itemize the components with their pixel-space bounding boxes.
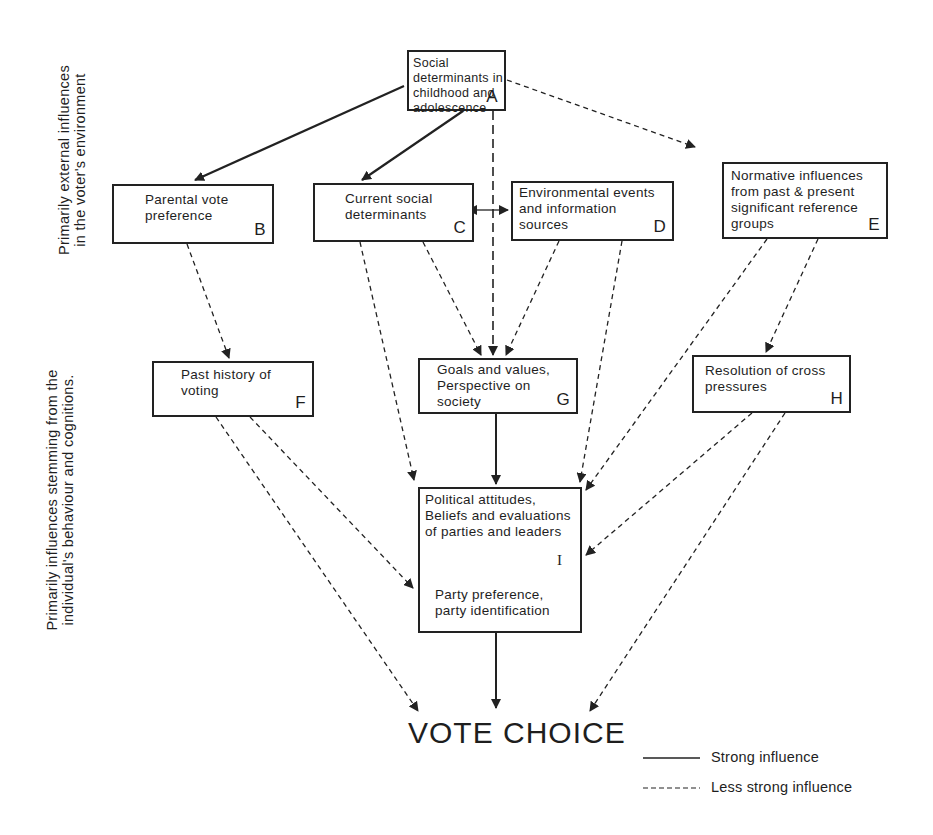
vote-choice-outcome: VOTE CHOICE <box>408 716 626 750</box>
edge-f-vote <box>216 417 418 711</box>
node-label: Goals and values, Perspective on society <box>437 362 550 410</box>
edge-c-i <box>360 242 414 480</box>
node-letter: G <box>556 391 570 409</box>
node-label: Normative influences from past & present… <box>731 168 863 232</box>
node-i-top-label: Political attitudes, Beliefs and evaluat… <box>425 492 571 540</box>
node-label: Past history of voting <box>181 367 271 399</box>
node-label: Social determinants in childhood and ado… <box>413 56 504 116</box>
node-c-current-social-determinants: Current social determinants C <box>313 183 474 242</box>
node-label: Environmental events and information sou… <box>519 185 655 233</box>
node-letter: D <box>653 218 666 236</box>
node-letter: H <box>830 390 843 408</box>
node-a-social-determinants-childhood: Social determinants in childhood and ado… <box>407 50 506 111</box>
edge-d-i <box>580 241 622 482</box>
edge-a-c <box>362 111 463 180</box>
node-label: Resolution of cross pressures <box>705 363 826 395</box>
node-letter: C <box>453 219 466 237</box>
side-label-individual: Primarily influences stemming from the i… <box>44 310 76 690</box>
side-label-external: Primarily external influences in the vot… <box>56 10 88 310</box>
legend-less-strong-label: Less strong influence <box>711 779 852 795</box>
node-g-goals-and-values: Goals and values, Perspective on society… <box>418 358 578 414</box>
edge-e-h <box>766 239 818 352</box>
edge-b-f <box>187 244 229 358</box>
node-e-normative-influences: Normative influences from past & present… <box>722 162 888 239</box>
node-d-environmental-events: Environmental events and information sou… <box>511 181 674 241</box>
node-label: Parental vote preference <box>145 192 228 224</box>
edge-c-g <box>423 242 481 355</box>
edge-h-i <box>586 413 752 555</box>
node-letter: F <box>295 394 306 412</box>
edge-d-g <box>506 241 559 355</box>
node-f-past-history-of-voting: Past history of voting F <box>152 361 314 417</box>
node-i-bottom-label: Party preference, party identification <box>435 587 550 619</box>
edge-h-vote <box>590 413 785 711</box>
node-h-resolution-of-cross-pressures: Resolution of cross pressures H <box>692 355 851 413</box>
node-b-parental-vote-preference: Parental vote preference B <box>112 184 274 244</box>
edge-a-b <box>195 86 404 180</box>
influence-arrows <box>0 0 933 835</box>
edge-a-e <box>507 80 695 147</box>
node-i-letter: I <box>557 552 562 569</box>
node-letter: B <box>254 221 266 239</box>
node-label: Current social determinants <box>345 191 432 223</box>
legend-strong-label: Strong influence <box>711 749 819 765</box>
node-letter: A <box>486 88 498 106</box>
node-letter: E <box>868 216 880 234</box>
